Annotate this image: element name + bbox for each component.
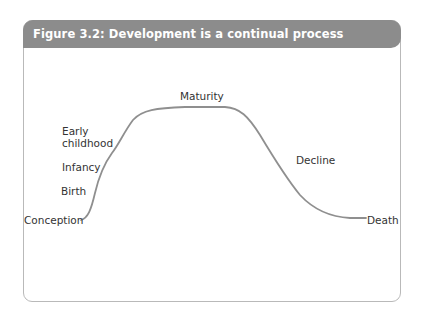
label-conception: Conception <box>24 214 83 226</box>
label-death: Death <box>367 214 399 226</box>
label-early-childhood-line1: Early <box>62 125 89 137</box>
label-early-childhood-line2: childhood <box>62 137 113 149</box>
label-infancy: Infancy <box>62 161 101 173</box>
label-birth: Birth <box>61 185 86 197</box>
label-decline: Decline <box>296 154 335 166</box>
label-maturity: Maturity <box>180 90 224 102</box>
